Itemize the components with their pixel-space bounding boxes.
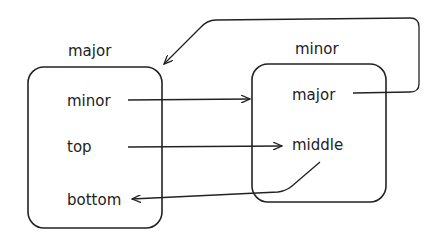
minor-item-major: major (292, 88, 335, 103)
edge-top-to-middle (128, 146, 282, 147)
minor-box (252, 64, 386, 202)
major-item-bottom: bottom (67, 193, 121, 208)
edge-minor-to-minor-box (128, 99, 250, 100)
minor-item-middle: middle (292, 138, 343, 153)
minor-box-title: minor (295, 42, 339, 57)
major-item-top: top (67, 140, 92, 155)
edge-middle-to-bottom (132, 162, 320, 199)
edge-major-to-major-box (164, 18, 419, 93)
major-box-title: major (68, 44, 111, 59)
major-item-minor: minor (67, 94, 111, 109)
